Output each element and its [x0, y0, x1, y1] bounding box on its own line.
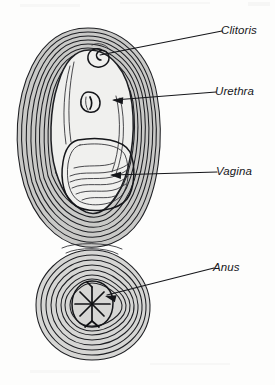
- label-clitoris: Clitoris: [221, 24, 257, 36]
- labia-contour-group: [17, 28, 160, 247]
- label-vagina: Vagina: [216, 165, 252, 177]
- vestibule: [51, 50, 133, 213]
- anatomy-figure: ClitorisUrethraVaginaAnus: [0, 0, 275, 385]
- label-text-group: ClitorisUrethraVaginaAnus: [212, 24, 257, 273]
- label-urethra: Urethra: [215, 85, 254, 97]
- label-anus: Anus: [212, 261, 240, 273]
- anus-contour-group: [36, 244, 150, 360]
- diagram-page: ClitorisUrethraVaginaAnus: [0, 0, 275, 385]
